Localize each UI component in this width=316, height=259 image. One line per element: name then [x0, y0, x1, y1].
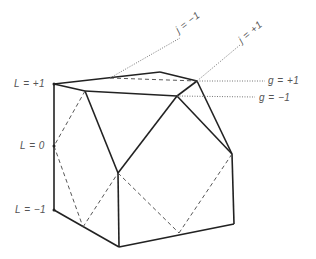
label-L-zero: L = 0 — [20, 140, 45, 151]
label-g-minus: g = −1 — [259, 92, 290, 103]
polyhedron-diagram — [0, 0, 316, 259]
label-g-plus: g = +1 — [268, 75, 299, 86]
label-L-plus: L = +1 — [14, 78, 45, 89]
label-L-minus: L = −1 — [15, 204, 46, 215]
dashed-edges — [54, 78, 232, 233]
